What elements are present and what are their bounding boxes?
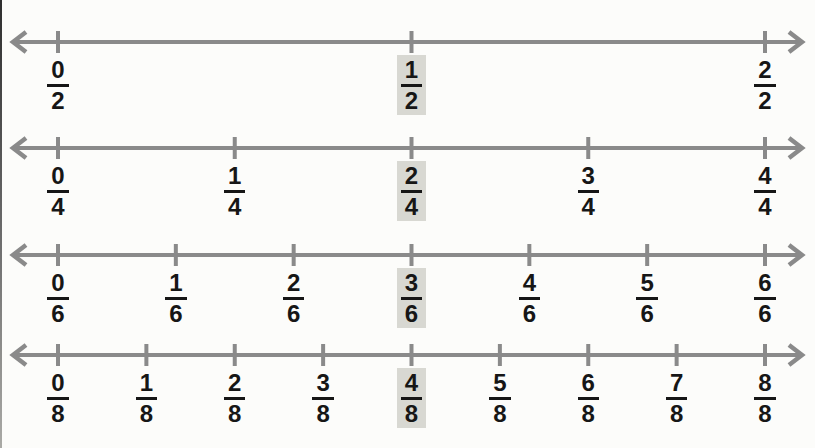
fraction-numerator: 4	[401, 371, 422, 400]
fraction-label-position: 58	[476, 368, 524, 428]
fraction-label-position: 16	[152, 268, 200, 328]
fraction-label: 26	[279, 268, 308, 328]
fraction-label: 08	[43, 368, 72, 428]
fraction-number-lines-worksheet: 0212220414243444061626364656660818283848…	[0, 0, 815, 448]
fraction-denominator: 4	[51, 193, 64, 219]
fraction-label-position: 48	[388, 368, 436, 428]
fraction-label: 04	[43, 161, 72, 221]
fraction-denominator: 8	[582, 400, 595, 426]
fraction-label-position: 44	[741, 161, 789, 221]
fraction-numerator: 1	[401, 58, 422, 87]
fraction-denominator: 8	[228, 400, 241, 426]
fraction-numerator: 2	[283, 271, 304, 300]
fraction-numerator: 0	[47, 371, 68, 400]
fraction-denominator: 8	[493, 400, 506, 426]
number-line-sixths: 06162636465666	[0, 242, 815, 340]
fraction-numerator: 2	[754, 58, 775, 87]
fraction-denominator: 8	[758, 400, 771, 426]
fraction-denominator: 2	[758, 87, 771, 113]
fraction-label: 46	[515, 268, 544, 328]
fraction-label: 18	[132, 368, 161, 428]
fraction-label: 28	[220, 368, 249, 428]
fraction-label-position: 68	[564, 368, 612, 428]
fraction-numerator: 8	[754, 371, 775, 400]
fraction-label-position: 78	[653, 368, 701, 428]
fraction-numerator: 0	[47, 164, 68, 193]
fraction-denominator: 8	[51, 400, 64, 426]
fraction-label: 88	[750, 368, 779, 428]
fraction-label-position: 12	[388, 55, 436, 115]
fraction-label: 38	[308, 368, 337, 428]
fraction-label: 34	[574, 161, 603, 221]
fraction-label-highlighted: 24	[397, 161, 426, 221]
fraction-numerator: 0	[47, 271, 68, 300]
fraction-label: 06	[43, 268, 72, 328]
fraction-denominator: 6	[405, 300, 418, 326]
fraction-numerator: 3	[312, 371, 333, 400]
fraction-denominator: 4	[228, 193, 241, 219]
number-line-eighths: 081828384858687888	[0, 342, 815, 440]
fraction-numerator: 0	[47, 58, 68, 87]
fraction-label-position: 36	[388, 268, 436, 328]
fraction-label-position: 38	[299, 368, 347, 428]
fraction-denominator: 2	[405, 87, 418, 113]
fraction-denominator: 4	[758, 193, 771, 219]
fraction-label-position: 14	[211, 161, 259, 221]
fraction-label: 68	[574, 368, 603, 428]
fraction-label: 66	[750, 268, 779, 328]
number-line-axis	[0, 242, 815, 268]
fraction-label: 02	[43, 55, 72, 115]
fraction-denominator: 4	[405, 193, 418, 219]
fraction-label-position: 04	[34, 161, 82, 221]
fraction-label-position: 88	[741, 368, 789, 428]
fraction-denominator: 6	[287, 300, 300, 326]
fraction-label: 44	[750, 161, 779, 221]
fraction-label-position: 26	[270, 268, 318, 328]
fraction-label-position: 34	[564, 161, 612, 221]
number-line-fourths: 0414243444	[0, 135, 815, 233]
fraction-denominator: 8	[670, 400, 683, 426]
fraction-numerator: 1	[136, 371, 157, 400]
fraction-denominator: 8	[316, 400, 329, 426]
fraction-label-position: 06	[34, 268, 82, 328]
fraction-denominator: 4	[582, 193, 595, 219]
number-line-axis	[0, 29, 815, 55]
fraction-denominator: 8	[140, 400, 153, 426]
fraction-numerator: 5	[489, 371, 510, 400]
number-line-axis	[0, 342, 815, 368]
fraction-label-highlighted: 12	[397, 55, 426, 115]
fraction-denominator: 2	[51, 87, 64, 113]
fraction-numerator: 3	[401, 271, 422, 300]
fraction-label-position: 18	[122, 368, 170, 428]
fraction-numerator: 2	[224, 371, 245, 400]
fraction-numerator: 1	[165, 271, 186, 300]
fraction-numerator: 3	[578, 164, 599, 193]
fraction-label-position: 66	[741, 268, 789, 328]
fraction-label-position: 08	[34, 368, 82, 428]
fraction-numerator: 2	[401, 164, 422, 193]
fraction-label-position: 56	[623, 268, 671, 328]
fraction-denominator: 8	[405, 400, 418, 426]
fraction-label-highlighted: 36	[397, 268, 426, 328]
fraction-numerator: 4	[754, 164, 775, 193]
fraction-label-highlighted: 48	[397, 368, 426, 428]
fraction-denominator: 6	[523, 300, 536, 326]
fraction-label: 58	[485, 368, 514, 428]
fraction-label-position: 22	[741, 55, 789, 115]
fraction-numerator: 7	[666, 371, 687, 400]
fraction-label: 14	[220, 161, 249, 221]
fraction-label: 16	[161, 268, 190, 328]
fraction-label: 22	[750, 55, 779, 115]
fraction-numerator: 5	[636, 271, 657, 300]
number-line-axis	[0, 135, 815, 161]
fraction-label-position: 24	[388, 161, 436, 221]
fraction-numerator: 4	[519, 271, 540, 300]
fraction-denominator: 6	[640, 300, 653, 326]
fraction-denominator: 6	[51, 300, 64, 326]
number-line-halves: 021222	[0, 29, 815, 127]
fraction-numerator: 6	[578, 371, 599, 400]
fraction-label: 78	[662, 368, 691, 428]
fraction-label-position: 02	[34, 55, 82, 115]
fraction-label: 56	[632, 268, 661, 328]
fraction-denominator: 6	[169, 300, 182, 326]
